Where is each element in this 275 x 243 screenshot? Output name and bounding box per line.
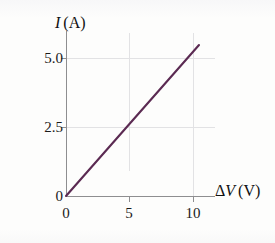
x-axis-title-variable: V — [225, 182, 235, 199]
y-ticklabel-2.5: 2.5 — [44, 119, 63, 136]
plot-area: 5.0 2.5 0 0 5 10 I(A) ΔV(V) — [0, 0, 275, 243]
data-series-line — [0, 0, 275, 243]
y-ticklabel-5: 5.0 — [44, 50, 63, 67]
x-axis-title: ΔV(V) — [215, 182, 260, 200]
y-axis-title: I(A) — [55, 14, 86, 32]
x-ticklabel-5: 5 — [125, 205, 133, 222]
delta-symbol: Δ — [215, 182, 225, 199]
y-axis-title-unit: (A) — [63, 14, 85, 31]
y-ticklabel-0: 0 — [56, 188, 64, 205]
x-axis-title-unit: (V) — [238, 182, 260, 199]
y-axis-title-variable: I — [55, 14, 60, 31]
x-ticklabel-0: 0 — [62, 205, 70, 222]
figure: 5.0 2.5 0 0 5 10 I(A) ΔV(V) — [0, 0, 275, 243]
x-ticklabel-10: 10 — [186, 205, 201, 222]
